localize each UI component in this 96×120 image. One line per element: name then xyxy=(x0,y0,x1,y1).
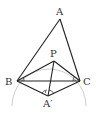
label-b: B xyxy=(5,76,12,87)
label-a-prime: A′ xyxy=(42,98,53,109)
label-p: P xyxy=(50,48,57,59)
label-a: A xyxy=(55,6,64,17)
segment-ca-prime xyxy=(48,81,80,96)
segment-pc xyxy=(54,61,80,81)
segment-pb xyxy=(17,61,54,81)
segment-ba-prime xyxy=(17,81,48,96)
angle-mark-a-prime-left xyxy=(42,90,47,93)
geometry-diagram: A P B C A′ xyxy=(0,0,96,120)
label-c: C xyxy=(83,76,91,87)
angle-dot-b xyxy=(21,79,22,80)
angle-mark-a-prime-right xyxy=(49,90,54,93)
angle-dot-a-prime xyxy=(45,91,46,92)
angle-dot-c xyxy=(74,79,75,80)
